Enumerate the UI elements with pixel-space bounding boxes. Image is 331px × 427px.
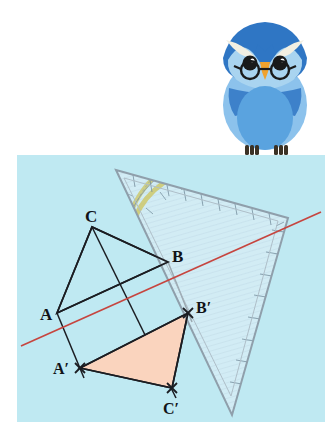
vertex-label-A: A xyxy=(40,305,53,324)
figure-page: A B C A′ B′ C′ xyxy=(0,0,331,427)
vertex-label-C: C xyxy=(85,207,97,226)
vertex-label-B-prime: B′ xyxy=(196,299,211,316)
vertex-label-A-prime: A′ xyxy=(53,360,69,377)
geometry-figure: A B C A′ B′ C′ xyxy=(0,0,331,427)
vertex-label-B: B xyxy=(172,247,183,266)
vertex-label-C-prime: C′ xyxy=(163,400,179,417)
